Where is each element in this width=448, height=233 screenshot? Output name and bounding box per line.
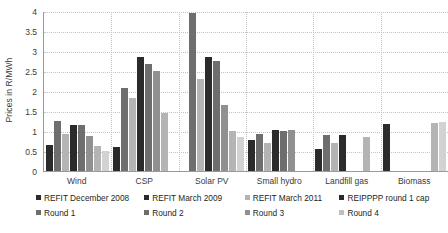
chart-legend: REFIT December 2008REFIT March 2009REFIT…	[36, 190, 436, 220]
legend-item[interactable]: Round 2	[144, 208, 244, 218]
y-axis-tick-label: 1.5	[25, 107, 37, 117]
legend-swatch-icon	[36, 210, 41, 215]
bar	[54, 121, 61, 171]
bar	[229, 131, 236, 171]
x-axis-tick-label: Solar PV	[178, 176, 246, 190]
legend-swatch-icon	[245, 195, 250, 200]
bar	[161, 113, 168, 171]
legend-label: Round 3	[253, 208, 284, 218]
legend-label: REFIT March 2009	[152, 193, 222, 203]
legend-item[interactable]: REIPPPP round 1 cap	[339, 193, 436, 203]
x-axis-labels: WindCSPSolar PVSmall hydroLandfill gasBi…	[43, 176, 448, 190]
legend-label: Round 1	[44, 208, 75, 218]
y-axis-tick-label: 4	[32, 7, 37, 17]
y-axis-tick-label: 1	[32, 127, 37, 137]
plot-area-wrapper: 43.532.521.510.50	[18, 12, 448, 174]
bar-group-bars	[113, 12, 177, 171]
bar	[189, 13, 196, 171]
y-axis-ticks: 43.532.521.510.50	[18, 12, 40, 174]
legend-swatch-icon	[144, 195, 149, 200]
legend-item[interactable]: Round 3	[245, 208, 340, 218]
y-axis-tick-label: 3	[32, 47, 37, 57]
legend-label: Round 4	[347, 208, 378, 218]
legend-item[interactable]: REFIT March 2009	[144, 193, 244, 203]
legend-label: Round 2	[152, 208, 183, 218]
bar	[129, 98, 136, 171]
bar	[153, 71, 160, 171]
y-axis-tick-label: 0	[32, 167, 37, 177]
x-axis-tick-label: CSP	[111, 176, 179, 190]
bar	[323, 135, 330, 171]
plot-area	[43, 12, 448, 172]
legend-item[interactable]: REFIT March 2011	[245, 193, 340, 203]
legend-swatch-icon	[339, 210, 344, 215]
legend-swatch-icon	[245, 210, 250, 215]
x-axis-tick-label: Landfill gas	[313, 176, 381, 190]
bar	[363, 137, 370, 171]
bar	[137, 57, 144, 171]
bar	[315, 149, 322, 171]
bar-group	[313, 12, 380, 171]
bar	[62, 134, 69, 171]
bar-group	[381, 12, 448, 171]
legend-row: Round 1Round 2Round 3Round 4	[36, 205, 436, 220]
legend-label: REFIT March 2011	[253, 193, 322, 203]
bar	[439, 122, 446, 171]
bar-group	[246, 12, 313, 171]
bar	[113, 147, 120, 171]
bar	[145, 64, 152, 171]
bar	[205, 57, 212, 171]
bar-group-bars	[180, 12, 244, 171]
bar	[248, 140, 255, 171]
legend-row: REFIT December 2008REFIT March 2009REFIT…	[36, 190, 436, 205]
bar-group	[44, 12, 111, 171]
bar	[288, 130, 295, 171]
legend-swatch-icon	[144, 210, 149, 215]
bar-group-bars	[248, 12, 312, 171]
bar	[383, 124, 390, 171]
bar	[272, 130, 279, 171]
legend-swatch-icon	[339, 195, 344, 200]
legend-item[interactable]: REFIT December 2008	[36, 193, 144, 203]
bar-group-bars	[315, 12, 379, 171]
bar	[197, 79, 204, 171]
bar-groups	[44, 12, 448, 171]
bar	[331, 143, 338, 171]
legend-label: REFIT December 2008	[44, 193, 129, 203]
bar	[256, 134, 263, 171]
bar	[280, 131, 287, 171]
bar	[94, 146, 101, 171]
bar	[213, 61, 220, 171]
bar	[78, 125, 85, 171]
bar	[102, 151, 109, 171]
y-axis-tick-label: 0.5	[25, 147, 37, 157]
legend-label: REIPPPP round 1 cap	[347, 193, 429, 203]
bar	[339, 135, 346, 171]
bar	[264, 143, 271, 171]
legend-item[interactable]: Round 4	[339, 208, 436, 218]
bar	[121, 88, 128, 171]
bar	[46, 145, 53, 171]
y-axis-tick-label: 2.5	[25, 67, 37, 77]
bar-group-bars	[382, 12, 446, 171]
x-axis-tick-label: Wind	[43, 176, 111, 190]
y-axis-tick-label: 3.5	[25, 27, 37, 37]
bar-group-bars	[46, 12, 110, 171]
bar-group	[179, 12, 246, 171]
bar	[86, 136, 93, 171]
y-axis-tick-label: 2	[32, 87, 37, 97]
bar	[70, 125, 77, 171]
x-axis-tick-label: Small hydro	[246, 176, 314, 190]
bar	[237, 137, 244, 171]
legend-swatch-icon	[36, 195, 41, 200]
bar	[431, 123, 438, 171]
y-axis-title-label: Prices in R/MWh	[4, 58, 14, 123]
y-axis-title: Prices in R/MWh	[0, 0, 18, 180]
legend-item[interactable]: Round 1	[36, 208, 144, 218]
x-axis-tick-label: Biomass	[381, 176, 448, 190]
bar	[221, 105, 228, 171]
bar-chart: Prices in R/MWh 43.532.521.510.50 WindCS…	[0, 0, 448, 233]
bar-group	[111, 12, 178, 171]
